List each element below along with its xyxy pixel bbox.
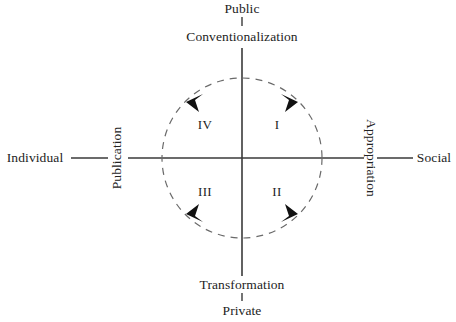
- axis-label-publication: Publication: [110, 127, 124, 190]
- axis-label-individual: Individual: [7, 151, 64, 165]
- axis-label-conventionalization: Conventionalization: [186, 30, 297, 44]
- axis-label-transformation: Transformation: [200, 278, 285, 292]
- quadrant-label-iv: IV: [198, 117, 213, 133]
- quadrant-label-i: I: [275, 117, 280, 133]
- axis-label-social: Social: [417, 151, 451, 165]
- quadrant-label-ii: II: [272, 184, 281, 200]
- axis-label-private: Private: [223, 304, 262, 318]
- cycle-arrow-lower-right: [281, 204, 298, 222]
- axis-label-public: Public: [224, 2, 259, 16]
- cycle-arrow-upper-right: [281, 94, 298, 112]
- cycle-arrow-lower-left: [186, 204, 203, 222]
- axis-label-appropriation: Appropriation: [364, 119, 378, 197]
- quadrant-label-iii: III: [198, 184, 212, 200]
- diagram-canvas: Public Conventionalization Transformatio…: [0, 0, 456, 322]
- diagram-graphics: [0, 0, 456, 322]
- cycle-arrow-upper-left: [186, 94, 203, 112]
